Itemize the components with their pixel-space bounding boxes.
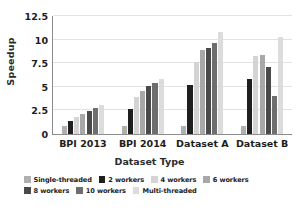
- legend-label: 10 workers: [86, 187, 126, 195]
- bar: [128, 109, 133, 134]
- y-axis-title: Speedup: [5, 30, 16, 94]
- bar-groups: [53, 16, 292, 134]
- legend-swatch: [24, 176, 31, 183]
- legend-item: Single-threaded: [24, 175, 92, 184]
- legend-item: 10 workers: [76, 186, 126, 195]
- x-tick-label: BPI 2014: [119, 138, 167, 149]
- y-tick-label: 5: [41, 81, 48, 92]
- legend-label: 2 workers: [108, 176, 144, 184]
- legend-swatch: [76, 187, 83, 194]
- bar: [206, 48, 211, 134]
- bar: [152, 83, 157, 134]
- bar-group: [53, 16, 113, 134]
- bar: [278, 37, 283, 134]
- x-tick-label: Dataset B: [236, 138, 288, 149]
- bar: [93, 108, 98, 134]
- bar: [266, 67, 271, 134]
- y-tick-label: 10: [35, 34, 48, 45]
- x-axis-title: Dataset Type: [0, 156, 299, 167]
- bar: [253, 56, 258, 134]
- legend-swatch: [151, 176, 158, 183]
- bar: [181, 126, 186, 134]
- bar: [134, 97, 139, 134]
- bar: [241, 126, 246, 134]
- legend-swatch: [133, 187, 140, 194]
- bar: [80, 114, 85, 134]
- bar: [200, 50, 205, 134]
- legend-label: 8 workers: [34, 187, 70, 195]
- bar: [187, 85, 192, 134]
- bar-group: [232, 16, 292, 134]
- bar: [87, 111, 92, 134]
- y-tick-label: 2.5: [31, 105, 48, 116]
- bar: [194, 62, 199, 134]
- speedup-bar-chart: Speedup 02.557.51012.5 BPI 2013BPI 2014D…: [0, 0, 299, 212]
- bar: [146, 86, 151, 134]
- legend-swatch: [203, 176, 210, 183]
- plot-area: 02.557.51012.5 BPI 2013BPI 2014Dataset A…: [52, 16, 292, 135]
- legend-item: Multi-threaded: [133, 186, 197, 195]
- x-tick-label: Dataset A: [176, 138, 229, 149]
- chart-legend: Single-threaded2 workers4 workers6 worke…: [24, 175, 276, 195]
- bar: [247, 79, 252, 134]
- y-tick-label: 0: [41, 129, 48, 140]
- legend-item: 2 workers: [99, 175, 144, 184]
- legend-item: 8 workers: [24, 186, 69, 195]
- bar: [122, 126, 127, 134]
- bar: [260, 55, 265, 134]
- legend-item: 6 workers: [203, 175, 248, 184]
- bar: [159, 79, 164, 134]
- bar: [212, 43, 217, 134]
- bar-group: [173, 16, 233, 134]
- legend-swatch: [24, 187, 31, 194]
- legend-item: 4 workers: [151, 175, 196, 184]
- bar: [99, 105, 104, 134]
- bar: [74, 117, 79, 134]
- bar: [272, 96, 277, 134]
- legend-label: 6 workers: [213, 176, 249, 184]
- legend-label: 4 workers: [161, 176, 197, 184]
- legend-label: Single-threaded: [34, 176, 92, 184]
- x-tick-label: BPI 2013: [59, 138, 107, 149]
- y-tick-label: 12.5: [25, 11, 48, 22]
- y-tick-label: 7.5: [31, 58, 48, 69]
- bar: [140, 91, 145, 134]
- bar-group: [113, 16, 173, 134]
- bar: [68, 121, 73, 134]
- legend-swatch: [99, 176, 106, 183]
- legend-label: Multi-threaded: [142, 187, 196, 195]
- bar: [62, 126, 67, 134]
- bar: [218, 32, 223, 134]
